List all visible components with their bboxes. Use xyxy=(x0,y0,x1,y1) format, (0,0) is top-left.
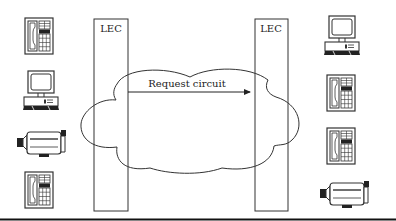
computer-icon xyxy=(324,16,360,55)
telephone-icon xyxy=(327,75,355,111)
left-telephone-1 xyxy=(25,18,53,54)
video-camera-icon xyxy=(320,181,369,208)
computer-icon xyxy=(23,71,59,110)
right-lec-label: LEC xyxy=(260,23,282,34)
telephone-icon xyxy=(25,172,53,208)
video-camera-icon xyxy=(17,130,66,157)
circuit-request-diagram: LEC LEC Request circuit xyxy=(0,0,396,221)
left-lec-label: LEC xyxy=(100,23,122,34)
right-telephone-2 xyxy=(327,128,355,164)
telephone-icon xyxy=(25,18,53,54)
right-computer xyxy=(324,16,360,55)
left-lec-switch: LEC xyxy=(94,19,128,211)
right-video-camera xyxy=(320,181,369,208)
request-circuit-label: Request circuit xyxy=(148,78,225,89)
left-computer xyxy=(23,71,59,110)
telephone-icon xyxy=(327,128,355,164)
left-telephone-2 xyxy=(25,172,53,208)
left-video-camera xyxy=(17,130,66,157)
right-lec-switch: LEC xyxy=(255,19,288,211)
right-telephone-1 xyxy=(327,75,355,111)
